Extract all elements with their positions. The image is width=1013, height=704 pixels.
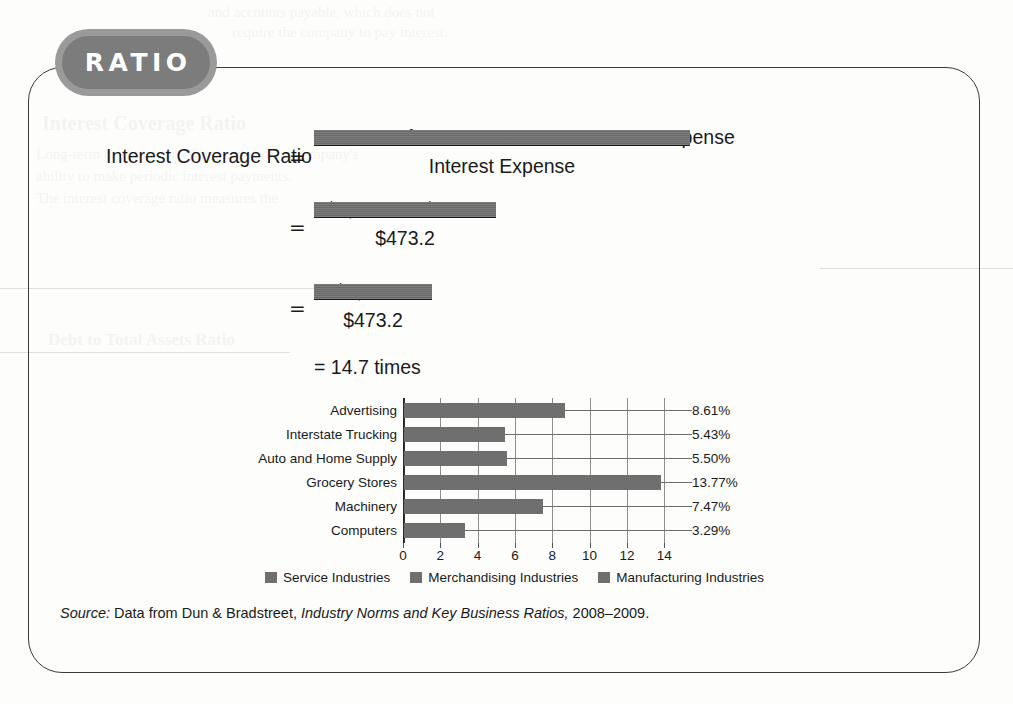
chart-value-label: 7.47% bbox=[692, 500, 730, 514]
chart-value-label: 13.77% bbox=[692, 476, 738, 490]
chart-tick-label: 14 bbox=[657, 549, 672, 563]
chart-bar bbox=[404, 475, 661, 490]
bleed-artifact-top-right: and accounts payable, which does not bbox=[208, 4, 435, 21]
chart-plot-area bbox=[403, 398, 681, 543]
source-years: 2008–2009. bbox=[573, 605, 650, 621]
chart-leader-line bbox=[465, 530, 692, 531]
chart-value-label: 5.43% bbox=[692, 428, 730, 442]
chart-legend-swatch bbox=[598, 572, 610, 583]
chart-bar-row bbox=[404, 423, 682, 447]
chart-bar-row bbox=[404, 447, 682, 471]
chart-category-label: Auto and Home Supply bbox=[258, 452, 397, 466]
chart-leader-line bbox=[505, 434, 692, 435]
chart-category-label: Computers bbox=[331, 524, 397, 538]
chart-tick-label: 10 bbox=[582, 549, 597, 563]
source-publication: Industry Norms and Key Business Ratios, bbox=[301, 605, 569, 621]
chart-bar bbox=[404, 451, 507, 466]
chart-legend-item: Service Industries bbox=[265, 570, 390, 585]
chart-tick-label: 2 bbox=[437, 549, 445, 563]
chart-category-labels: AdvertisingInterstate TruckingAuto and H… bbox=[240, 398, 403, 543]
chart-leader-line bbox=[661, 482, 692, 483]
chart-bar-row bbox=[404, 519, 682, 543]
chart-leader-line bbox=[507, 458, 692, 459]
chart-legend-swatch bbox=[265, 572, 277, 583]
chart-bar bbox=[404, 427, 505, 442]
chart-bar-row bbox=[404, 471, 682, 495]
chart-tick-label: 4 bbox=[474, 549, 482, 563]
chart-category-label: Interstate Trucking bbox=[286, 428, 397, 442]
bleed-artifact-top-right-2: require the company to pay interest. bbox=[232, 24, 448, 41]
source-note: Source: Data from Dun & Bradstreet, Indu… bbox=[60, 605, 649, 621]
chart-x-axis-ticks: 02468101214 bbox=[403, 543, 681, 567]
chart-legend-label: Merchandising Industries bbox=[428, 570, 578, 585]
chart-legend-swatch bbox=[410, 572, 422, 583]
ratio-badge-label: RATIO bbox=[80, 48, 191, 77]
source-prefix: Source: bbox=[60, 605, 110, 621]
chart-legend-label: Service Industries bbox=[283, 570, 390, 585]
ratio-badge: RATIO bbox=[55, 29, 217, 96]
chart-category-label: Machinery bbox=[335, 500, 397, 514]
industry-ratio-bar-chart: AdvertisingInterstate TruckingAuto and H… bbox=[240, 398, 800, 588]
chart-legend-item: Merchandising Industries bbox=[410, 570, 578, 585]
chart-legend: Service IndustriesMerchandising Industri… bbox=[227, 570, 802, 585]
chart-tick-label: 6 bbox=[511, 549, 519, 563]
chart-bar-row bbox=[404, 495, 682, 519]
chart-category-label: Advertising bbox=[330, 404, 397, 418]
chart-legend-label: Manufacturing Industries bbox=[616, 570, 764, 585]
chart-value-label: 3.29% bbox=[692, 524, 730, 538]
chart-bar bbox=[404, 499, 543, 514]
chart-value-label: 5.50% bbox=[692, 452, 730, 466]
chart-bar bbox=[404, 523, 465, 538]
chart-tick-label: 8 bbox=[548, 549, 556, 563]
chart-leader-line bbox=[565, 410, 692, 411]
chart-legend-item: Manufacturing Industries bbox=[598, 570, 764, 585]
chart-value-label: 8.61% bbox=[692, 404, 730, 418]
ratio-badge-inner: RATIO bbox=[62, 36, 210, 89]
chart-tick-label: 12 bbox=[619, 549, 634, 563]
chart-tick-label: 0 bbox=[399, 549, 407, 563]
source-text: Data from Dun & Bradstreet, bbox=[114, 605, 297, 621]
chart-category-label: Grocery Stores bbox=[306, 476, 397, 490]
chart-bar-row bbox=[404, 399, 682, 423]
chart-leader-line bbox=[543, 506, 692, 507]
chart-bar bbox=[404, 403, 565, 418]
